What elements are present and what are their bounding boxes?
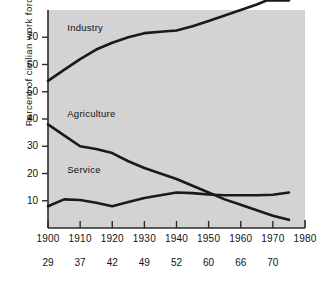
y-tick-label: 70: [16, 31, 38, 42]
x-tick-label-secondary: 37: [62, 257, 98, 268]
series-label-agriculture: Agriculture: [67, 108, 115, 119]
series-label-service: Service: [67, 164, 100, 175]
y-tick-marks: [42, 37, 48, 201]
x-tick-label-secondary: 42: [94, 257, 130, 268]
x-tick-label: 1970: [255, 233, 291, 244]
x-tick-label: 1910: [62, 233, 98, 244]
y-tick-label: 20: [16, 168, 38, 179]
x-tick-label: 1980: [287, 233, 322, 244]
x-tick-label: 1950: [191, 233, 227, 244]
series-label-industry: Industry: [67, 22, 103, 33]
x-tick-label: 1920: [94, 233, 130, 244]
x-tick-label-secondary: 70: [255, 257, 291, 268]
y-tick-label: 60: [16, 59, 38, 70]
chart-figure: Percent of civilian work force 102030405…: [0, 0, 322, 287]
x-tick-label: 1900: [30, 233, 66, 244]
y-tick-label: 10: [16, 195, 38, 206]
x-tick-label: 1930: [126, 233, 162, 244]
x-tick-label: 1960: [223, 233, 259, 244]
y-tick-label: 40: [16, 113, 38, 124]
x-tick-label-secondary: 49: [126, 257, 162, 268]
x-tick-label-secondary: 29: [30, 257, 66, 268]
y-tick-label: 30: [16, 140, 38, 151]
y-tick-label: 50: [16, 86, 38, 97]
x-tick-label-secondary: 52: [159, 257, 195, 268]
x-tick-label-secondary: 66: [223, 257, 259, 268]
x-tick-label: 1940: [159, 233, 195, 244]
x-tick-label-secondary: 60: [191, 257, 227, 268]
